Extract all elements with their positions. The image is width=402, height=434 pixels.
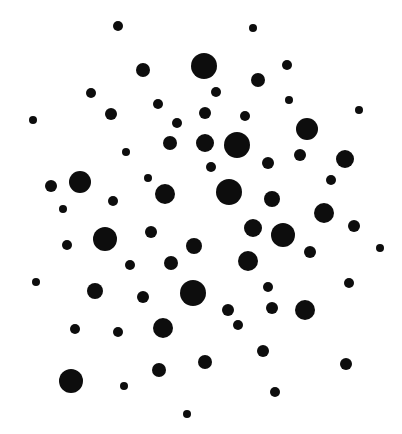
- scatter-point: [304, 246, 316, 258]
- scatter-point: [285, 96, 293, 104]
- scatter-point: [244, 219, 262, 237]
- scatter-point: [163, 136, 177, 150]
- scatter-point: [199, 107, 211, 119]
- scatter-point: [153, 99, 163, 109]
- scatter-point: [296, 118, 318, 140]
- scatter-point: [70, 324, 80, 334]
- scatter-point: [224, 132, 250, 158]
- scatter-point: [183, 410, 191, 418]
- scatter-point: [240, 111, 250, 121]
- scatter-point: [108, 196, 118, 206]
- scatter-point: [249, 24, 257, 32]
- scatter-point: [186, 238, 202, 254]
- scatter-point: [257, 345, 269, 357]
- scatter-point: [263, 282, 273, 292]
- scatter-plot-svg: [0, 0, 402, 434]
- scatter-point: [271, 223, 295, 247]
- scatter-point: [211, 87, 221, 97]
- scatter-point: [264, 191, 280, 207]
- scatter-point: [87, 283, 103, 299]
- scatter-point: [340, 358, 352, 370]
- scatter-point: [344, 278, 354, 288]
- scatter-point: [355, 106, 363, 114]
- scatter-point: [238, 251, 258, 271]
- scatter-point: [336, 150, 354, 168]
- scatter-point: [144, 174, 152, 182]
- scatter-point: [216, 179, 242, 205]
- scatter-point: [233, 320, 243, 330]
- scatter-point: [59, 369, 83, 393]
- scatter-point: [113, 327, 123, 337]
- scatter-point: [137, 291, 149, 303]
- scatter-point: [125, 260, 135, 270]
- scatter-point: [295, 300, 315, 320]
- scatter-point: [32, 278, 40, 286]
- scatter-point: [122, 148, 130, 156]
- scatter-point: [62, 240, 72, 250]
- scatter-point: [270, 387, 280, 397]
- scatter-point: [93, 227, 117, 251]
- scatter-point: [59, 205, 67, 213]
- scatter-point: [251, 73, 265, 87]
- scatter-point: [45, 180, 57, 192]
- scatter-point: [196, 134, 214, 152]
- scatter-point: [206, 162, 216, 172]
- scatter-point: [191, 53, 217, 79]
- scatter-point: [164, 256, 178, 270]
- scatter-point: [152, 363, 166, 377]
- scatter-point: [113, 21, 123, 31]
- scatter-point: [136, 63, 150, 77]
- scatter-point: [180, 280, 206, 306]
- scatter-point: [153, 318, 173, 338]
- scatter-point: [282, 60, 292, 70]
- scatter-point: [326, 175, 336, 185]
- scatter-point: [86, 88, 96, 98]
- scatter-point: [105, 108, 117, 120]
- scatter-point: [222, 304, 234, 316]
- scatter-point: [155, 184, 175, 204]
- scatter-point: [69, 171, 91, 193]
- scatter-point: [172, 118, 182, 128]
- scatter-point: [198, 355, 212, 369]
- scatter-point: [262, 157, 274, 169]
- scatter-point: [266, 302, 278, 314]
- dot-field-canvas: [0, 0, 402, 434]
- scatter-point: [294, 149, 306, 161]
- scatter-point: [348, 220, 360, 232]
- scatter-point: [145, 226, 157, 238]
- scatter-point: [29, 116, 37, 124]
- scatter-point: [120, 382, 128, 390]
- scatter-point: [376, 244, 384, 252]
- scatter-point: [314, 203, 334, 223]
